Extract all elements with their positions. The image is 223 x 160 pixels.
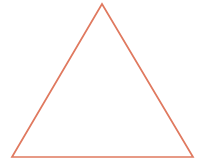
canvas-background	[0, 0, 223, 160]
drawing-canvas	[0, 0, 223, 160]
figure-svg	[0, 0, 223, 160]
